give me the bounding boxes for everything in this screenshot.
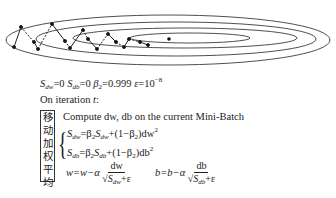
path-point — [87, 38, 90, 41]
path-point — [69, 47, 72, 50]
path-point — [128, 38, 131, 41]
initial-parameters: Sdw=0 Sdb=0 β2=0.999 ε=10−8 — [40, 76, 162, 91]
path-point — [20, 26, 23, 29]
update-b-equation: b=b−α db √Sdb+ε — [155, 160, 215, 188]
path-point — [13, 46, 16, 49]
moving-weighted-average-label: 移 动 加 权 平 均 — [40, 110, 55, 182]
contour-ellipse — [36, 22, 316, 56]
path-point — [64, 40, 67, 43]
contour-diagram — [0, 0, 336, 72]
path-point — [33, 41, 36, 44]
contour-ellipse — [130, 33, 250, 43]
iteration-label: On iteration t: — [40, 94, 99, 105]
equation-s-db: Sdb=β2Sdb+(1−β2)db2 — [67, 145, 153, 160]
equation-s-dw: Sdw=β2Sdw+(1−β2)dw2 — [67, 126, 158, 141]
compute-gradients-text: Compute dw, db on the current Mini-Batch — [63, 111, 244, 122]
fraction-b: db √Sdb+ε — [188, 160, 215, 188]
path-point — [82, 29, 85, 32]
path-point — [37, 48, 40, 51]
left-brace: { — [58, 128, 67, 160]
path-point — [139, 41, 142, 44]
path-point — [115, 41, 118, 44]
path-point — [147, 44, 150, 47]
contour-ellipse — [73, 28, 297, 48]
fraction-w: dw √Sdw+ε — [102, 160, 131, 188]
path-point — [123, 46, 126, 49]
path-point — [96, 48, 99, 51]
path-point — [51, 23, 54, 26]
minimum-point — [167, 37, 171, 41]
path-point — [107, 33, 110, 36]
update-w-equation: w=w−α dw √Sdw+ε — [66, 160, 131, 188]
